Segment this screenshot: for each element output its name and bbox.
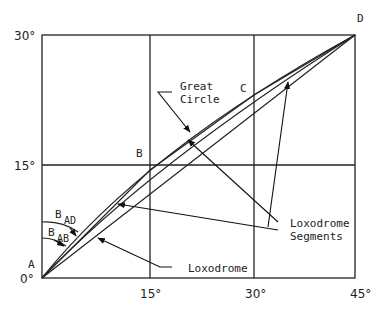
x-tick-15: 15° (140, 287, 161, 301)
great-circle-label-1: Great (180, 80, 213, 93)
x-tick-45: 45° (350, 287, 371, 301)
loxodrome-segments-label-1: Loxodrome (290, 217, 350, 230)
point-b-label: B (136, 147, 143, 160)
loxodrome-label: Loxodrome (188, 262, 248, 275)
y-tick-30: 30° (14, 29, 35, 43)
great-circle-label-2: Circle (180, 93, 220, 106)
x-tick-30: 30° (245, 287, 266, 301)
loxodrome-segment-arrow-2 (268, 82, 288, 227)
point-c-label: C (240, 82, 247, 95)
angle-bab-label: B (48, 226, 55, 239)
navigation-diagram: 0° 15° 30° 15° 30° 45° A B C D B AD B AB… (0, 0, 390, 310)
angle-bad-subscript: AD (64, 215, 76, 226)
y-tick-0: 0° (20, 272, 34, 286)
loxodrome-segment-arrow-1 (188, 140, 278, 222)
y-tick-15: 15° (14, 159, 35, 173)
loxodrome-arrow (98, 238, 172, 267)
angle-bad-label: B (55, 208, 62, 221)
point-d-label: D (357, 12, 364, 25)
point-a-label: A (28, 258, 35, 271)
loxodrome-segments-label-2: Segments (290, 230, 343, 243)
